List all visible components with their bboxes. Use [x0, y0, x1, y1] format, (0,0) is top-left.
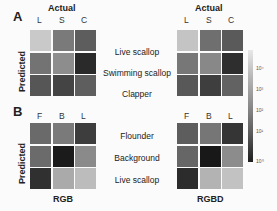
row-label: Live scallop [115, 47, 159, 57]
matrix-cell [53, 168, 74, 189]
panel-a-rgbd-x-title: Actual [195, 3, 223, 13]
colorbar-tick: 10² [256, 107, 263, 113]
row-label: Background [114, 153, 159, 163]
panel-a-rgb-x-title: Actual [48, 3, 76, 13]
matrix-cell [177, 168, 198, 189]
confusion-matrix-a-rgb [30, 30, 96, 96]
matrix-cell [222, 75, 243, 96]
matrix-cell [200, 146, 221, 167]
col-label: L [81, 111, 86, 121]
col-label: F [184, 111, 189, 121]
confusion-matrix-a-rgbd [177, 30, 243, 96]
col-label: C [81, 15, 87, 25]
panel-b-label: B [13, 104, 22, 119]
col-label: S [206, 15, 212, 25]
matrix-cell [75, 30, 96, 51]
confusion-matrix-b-rgbd [177, 123, 243, 189]
matrix-cell [200, 123, 221, 144]
col-label: F [37, 111, 42, 121]
matrix-cell [177, 123, 198, 144]
matrix-cell [53, 123, 74, 144]
matrix-cell [200, 168, 221, 189]
matrix-cell [75, 123, 96, 144]
matrix-cell [200, 75, 221, 96]
matrix-cell [200, 53, 221, 74]
caption-rgb: RGB [53, 194, 73, 204]
matrix-cell [222, 123, 243, 144]
matrix-cell [30, 168, 51, 189]
matrix-cell [53, 30, 74, 51]
matrix-cell [222, 146, 243, 167]
col-label: B [206, 111, 212, 121]
matrix-cell [75, 168, 96, 189]
matrix-cell [177, 30, 198, 51]
matrix-cell [222, 168, 243, 189]
col-label: L [228, 111, 233, 121]
matrix-cell [30, 123, 51, 144]
matrix-cell [53, 146, 74, 167]
col-label: S [59, 15, 65, 25]
matrix-cell [30, 146, 51, 167]
matrix-cell [75, 75, 96, 96]
confusion-matrix-b-rgb [30, 123, 96, 189]
matrix-cell [75, 53, 96, 74]
row-label: Clapper [122, 89, 152, 99]
panel-a-label: A [13, 9, 22, 24]
colorbar-tick: 10⁰ [256, 158, 264, 164]
matrix-cell [30, 30, 51, 51]
colorbar [248, 50, 253, 162]
matrix-cell [177, 75, 198, 96]
panel-b-y-title: Predicted [17, 143, 27, 184]
matrix-cell [30, 75, 51, 96]
panel-a-y-title: Predicted [17, 51, 27, 92]
matrix-cell [53, 53, 74, 74]
matrix-cell [177, 53, 198, 74]
col-label: L [184, 15, 189, 25]
matrix-cell [200, 30, 221, 51]
matrix-cell [53, 75, 74, 96]
col-label: L [37, 15, 42, 25]
row-label: Live scallop [115, 175, 159, 185]
colorbar-tick: 10¹ [256, 128, 263, 134]
colorbar-tick: 10⁴ [256, 65, 264, 71]
matrix-cell [30, 53, 51, 74]
row-label: Flounder [120, 131, 154, 141]
caption-rgbd: RGBD [197, 194, 224, 204]
matrix-cell [75, 146, 96, 167]
colorbar-tick: 10³ [256, 86, 263, 92]
col-label: C [228, 15, 234, 25]
matrix-cell [177, 146, 198, 167]
matrix-cell [222, 53, 243, 74]
row-label: Swimming scallop [103, 68, 171, 78]
matrix-cell [222, 30, 243, 51]
col-label: B [59, 111, 65, 121]
